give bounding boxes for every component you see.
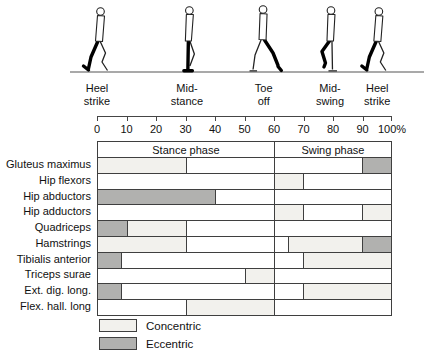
legend-item-concentric: Concentric: [99, 319, 201, 332]
walking-figure-toe-off: [250, 6, 282, 71]
axis-tick-label: 90: [356, 123, 368, 135]
activity-segment-concentric: [98, 237, 186, 252]
activity-segment-none: [186, 158, 274, 173]
muscle-label: Hip abductors: [0, 189, 94, 205]
activity-segment-concentric: [245, 269, 274, 284]
muscle-row: [98, 252, 391, 268]
activity-segment-concentric: [303, 253, 391, 268]
axis-tick: [391, 116, 392, 121]
activity-segment-none: [121, 284, 273, 299]
activity-segment-none: [303, 205, 362, 220]
activity-segment-concentric: [98, 158, 186, 173]
walking-figures: [70, 0, 424, 76]
activity-segment-none: [98, 174, 274, 189]
axis-tick-label: 100%: [378, 123, 406, 135]
activity-segment-none: [121, 253, 273, 268]
phase-label: Mid-swing: [316, 82, 344, 108]
axis-tick: [127, 116, 128, 121]
axis-tick-label: 70: [297, 123, 309, 135]
muscle-row: [98, 189, 391, 205]
gait-cycle-figure: HeelstrikeMid-stanceToeoffMid-swingHeels…: [0, 0, 424, 360]
muscle-label: Hip flexors: [0, 173, 94, 189]
axis-tick-label: 10: [120, 123, 132, 135]
activity-segment-none: [98, 269, 245, 284]
activity-segment-eccentric: [362, 158, 391, 173]
muscle-activity-table: Stance phase Swing phase: [97, 141, 392, 316]
activity-segment-eccentric: [98, 221, 127, 236]
axis-tick: [304, 116, 305, 121]
muscle-label: Tibialis anterior: [0, 252, 94, 268]
concentric-swatch: [99, 319, 137, 332]
phase-labels: HeelstrikeMid-stanceToeoffMid-swingHeels…: [97, 82, 392, 112]
activity-segment-none: [274, 237, 289, 252]
muscle-row: [98, 268, 391, 284]
legend: Concentric Eccentric: [99, 319, 201, 355]
walking-figure-heel-strike: [84, 8, 108, 71]
activity-segment-none: [274, 158, 362, 173]
activity-segment-none: [186, 221, 274, 236]
activity-segment-none: [274, 253, 303, 268]
activity-segment-concentric: [274, 205, 303, 220]
phase-label: Heelstrike: [84, 82, 110, 108]
axis-tick-label: 30: [179, 123, 191, 135]
axis-tick-label: 80: [327, 123, 339, 135]
activity-segment-none: [98, 300, 186, 315]
axis-tick-label: 50: [238, 123, 250, 135]
axis-tick-label: 0: [94, 123, 100, 135]
activity-segment-eccentric: [98, 190, 215, 205]
activity-segment-none: [274, 221, 391, 236]
muscle-label: Quadriceps: [0, 220, 94, 236]
activity-segment-concentric: [288, 237, 361, 252]
phase-label: Toeoff: [255, 82, 273, 108]
axis-tick: [245, 116, 246, 121]
phase-header-swing: Swing phase: [274, 142, 391, 157]
activity-segment-concentric: [274, 174, 303, 189]
axis-tick: [97, 116, 98, 121]
gait-axis: 0102030405060708090100%: [97, 116, 392, 140]
legend-label-concentric: Concentric: [146, 320, 201, 332]
activity-segment-none: [186, 237, 274, 252]
legend-label-eccentric: Eccentric: [146, 338, 193, 350]
muscle-row: [98, 220, 391, 236]
muscle-label: Ext. dig. long.: [0, 283, 94, 299]
muscle-row: [98, 173, 391, 189]
axis-tick: [333, 116, 334, 121]
walking-figure-mid-stance: [184, 7, 195, 71]
axis-tick-label: 60: [268, 123, 280, 135]
axis-tick-label: 40: [209, 123, 221, 135]
activity-segment-concentric: [362, 205, 391, 220]
muscle-label: Hip adductors: [0, 204, 94, 220]
axis-tick: [186, 116, 187, 121]
phase-header-stance: Stance phase: [98, 142, 274, 157]
muscle-row: [98, 204, 391, 220]
muscle-label: Triceps surae: [0, 267, 94, 283]
muscle-label-column: Gluteus maximusHip flexorsHip abductorsH…: [0, 157, 94, 315]
phase-header-row: Stance phase Swing phase: [97, 141, 392, 158]
phase-label: Mid-stance: [171, 82, 203, 108]
axis-tick: [215, 116, 216, 121]
activity-segment-none: [274, 284, 303, 299]
activity-segment-none: [274, 190, 391, 205]
walking-figure-mid-swing: [322, 7, 337, 71]
axis-tick: [156, 116, 157, 121]
activity-segment-eccentric: [362, 237, 391, 252]
phase-label: Heelstrike: [364, 82, 390, 108]
legend-item-eccentric: Eccentric: [99, 337, 201, 350]
activity-segment-eccentric: [98, 253, 121, 268]
muscle-row: [98, 236, 391, 252]
muscle-rows: [97, 158, 392, 316]
activity-segment-none: [98, 205, 274, 220]
muscle-row: [98, 283, 391, 299]
muscle-label: Flex. hall. long: [0, 299, 94, 315]
axis-tick: [363, 116, 364, 121]
axis-tick-label: 20: [150, 123, 162, 135]
activity-segment-none: [274, 269, 391, 284]
activity-segment-concentric: [127, 221, 186, 236]
muscle-row: [98, 299, 391, 315]
activity-segment-none: [274, 300, 391, 315]
muscle-label: Hamstrings: [0, 236, 94, 252]
muscle-row: [98, 158, 391, 173]
axis-tick: [274, 116, 275, 121]
activity-segment-concentric: [186, 300, 274, 315]
muscle-label: Gluteus maximus: [0, 157, 94, 173]
